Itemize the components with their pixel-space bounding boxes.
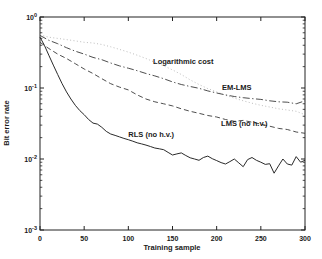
x-tick-label: 300 [299, 235, 311, 242]
x-tick-label: 50 [80, 235, 88, 242]
tick-labels: 05010015020025030010010-110-210-3 [24, 12, 311, 243]
y-tick-label: 10-1 [24, 83, 37, 93]
ber-vs-training-sample-figure: 05010015020025030010010-110-210-3 Traini… [0, 0, 322, 259]
x-tick-label: 200 [211, 235, 223, 242]
y-tick-label: 100 [26, 12, 37, 22]
y-axis-label: Bit error rate [2, 100, 11, 145]
y-tick-label: 10-2 [24, 154, 37, 164]
x-tick-label: 250 [255, 235, 267, 242]
series-lines [40, 35, 305, 173]
series-line-logarithmic-cost [40, 35, 305, 115]
x-tick-label: 100 [122, 235, 134, 242]
annotation-logarithmic-cost: Logarithmic cost [153, 57, 214, 66]
x-tick-label: 0 [38, 235, 42, 242]
series-line-em-lms [40, 35, 305, 103]
x-axis-label: Training sample [143, 243, 200, 252]
annotation-rls-no-hv: RLS (no h.v.) [128, 130, 174, 139]
y-tick-label: 10-3 [24, 225, 37, 235]
annotation-em-lms: EM-LMS [222, 83, 252, 92]
chart-canvas: 05010015020025030010010-110-210-3 Traini… [0, 0, 322, 259]
annotation-lms-no-hv: LMS (no h.v.) [221, 119, 268, 128]
x-tick-label: 150 [167, 235, 179, 242]
